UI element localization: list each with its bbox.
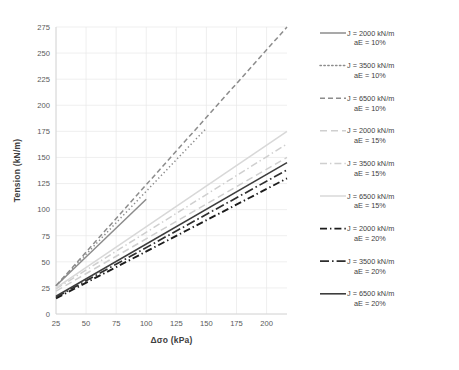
x-tick-label: 200 <box>260 319 273 328</box>
y-tick-label: 75 <box>42 232 50 241</box>
series-line-4 <box>56 144 287 289</box>
legend-label-8: J = 6500 kN/m <box>347 289 394 298</box>
legend-label-4: J = 3500 kN/m <box>347 159 394 168</box>
legend-label-7: J = 3500 kN/m <box>347 257 394 266</box>
x-tick-label: 125 <box>170 319 183 328</box>
x-tick-label: 50 <box>82 319 90 328</box>
legend-sublabel-2: aE = 10% <box>354 104 386 113</box>
legend-sublabel-4: aE = 15% <box>354 169 386 178</box>
series-line-2 <box>56 27 287 286</box>
x-tick-label: 25 <box>52 319 60 328</box>
gridlines <box>56 27 287 314</box>
x-tick-label: 100 <box>140 319 153 328</box>
y-tick-label: 0 <box>46 310 50 319</box>
series-line-6 <box>56 178 287 298</box>
legend-label-2: J = 6500 kN/m <box>347 94 394 103</box>
legend-label-1: J = 3500 kN/m <box>347 61 394 70</box>
y-tick-label: 250 <box>37 49 50 58</box>
series-lines <box>56 27 287 298</box>
legend-sublabel-8: aE = 20% <box>354 299 386 308</box>
y-tick-label: 275 <box>37 23 50 32</box>
legend-sublabel-3: aE = 15% <box>354 136 386 145</box>
legend-label-3: J = 2000 kN/m <box>347 126 394 135</box>
tension-vs-stress-chart: 0255075100125150175200225250275255075100… <box>0 0 459 370</box>
x-tick-label: 150 <box>200 319 213 328</box>
legend-sublabel-0: aE = 10% <box>354 38 386 47</box>
series-line-1 <box>56 128 206 286</box>
legend-label-0: J = 2000 kN/m <box>347 29 394 38</box>
legend-sublabel-7: aE = 20% <box>354 267 386 276</box>
y-tick-label: 225 <box>37 75 50 84</box>
x-axis-title: Δσo (kPa) <box>150 335 192 345</box>
legend-sublabel-1: aE = 10% <box>354 71 386 80</box>
chart-figure: 0255075100125150175200225250275255075100… <box>0 0 459 370</box>
legend-sublabel-5: aE = 15% <box>354 201 386 210</box>
legend-sublabel-6: aE = 20% <box>354 234 386 243</box>
legend: J = 2000 kN/maE = 10%J = 3500 kN/maE = 1… <box>320 29 394 309</box>
y-tick-label: 175 <box>37 127 50 136</box>
y-tick-label: 25 <box>42 284 50 293</box>
y-tick-label: 50 <box>42 258 50 267</box>
y-axis-title: Tension (kN/m) <box>12 139 22 203</box>
series-line-7 <box>56 170 287 297</box>
legend-label-5: J = 6500 kN/m <box>347 192 394 201</box>
x-tick-label: 75 <box>112 319 120 328</box>
y-tick-label: 150 <box>37 153 50 162</box>
y-tick-label: 125 <box>37 179 50 188</box>
x-tick-label: 175 <box>230 319 243 328</box>
y-tick-label: 200 <box>37 101 50 110</box>
series-line-8 <box>56 163 287 297</box>
y-tick-label: 100 <box>37 205 50 214</box>
legend-label-6: J = 2000 kN/m <box>347 224 394 233</box>
series-line-3 <box>56 157 287 291</box>
